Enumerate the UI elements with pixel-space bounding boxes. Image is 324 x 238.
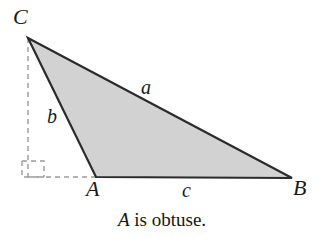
vertex-label-a: A — [86, 178, 99, 200]
caption-variable: A — [118, 209, 130, 230]
side-label-c: c — [182, 180, 191, 200]
triangle-shape — [28, 38, 292, 178]
caption-text: is obtuse. — [130, 209, 207, 230]
figure-caption: A is obtuse. — [0, 209, 324, 231]
figure-container: C A B a b c A is obtuse. — [0, 0, 324, 238]
right-angle-marker-inner-icon — [22, 161, 44, 177]
side-label-a: a — [141, 77, 151, 97]
side-label-b: b — [47, 106, 57, 126]
right-angle-marker-icon — [22, 161, 44, 177]
vertex-label-b: B — [293, 177, 306, 199]
vertex-label-c: C — [13, 6, 28, 28]
